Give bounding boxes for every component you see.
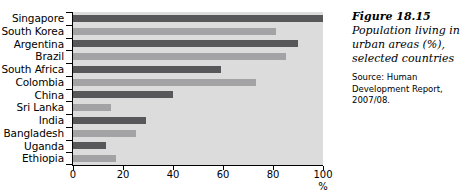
- x-axis-tick-label: 20: [117, 170, 130, 180]
- bar: [73, 15, 323, 22]
- y-axis-category-label: India: [0, 114, 66, 127]
- bar-row: [73, 114, 323, 127]
- bar-row: [73, 38, 323, 51]
- bar-row: [73, 76, 323, 89]
- y-axis-category-label: Brazil: [0, 50, 66, 63]
- x-axis-tick-label: 100: [313, 170, 332, 180]
- bar-chart: SingaporeSouth KoreaArgentinaBrazilSouth…: [0, 0, 330, 196]
- bar: [73, 79, 256, 86]
- x-axis-tick-label: 40: [167, 170, 180, 180]
- y-axis-category-label: Colombia: [0, 76, 66, 89]
- figure-description: Population living in urban areas (%), se…: [352, 24, 460, 66]
- bar: [73, 66, 221, 73]
- y-axis-category-label: South Africa: [0, 63, 66, 76]
- y-axis-category-label: Bangladesh: [0, 127, 66, 140]
- bar-row: [73, 89, 323, 102]
- bar: [73, 104, 111, 111]
- bar: [73, 91, 173, 98]
- bar-row: [73, 63, 323, 76]
- figure-source: Source: Human Development Report, 2007/0…: [352, 72, 460, 107]
- y-axis-category-label: Uganda: [0, 140, 66, 153]
- bar: [73, 28, 276, 35]
- figure-container: SingaporeSouth KoreaArgentinaBrazilSouth…: [0, 0, 463, 196]
- bar: [73, 155, 116, 162]
- y-axis-category-label: China: [0, 89, 66, 102]
- y-axis-category-labels: SingaporeSouth KoreaArgentinaBrazilSouth…: [0, 12, 66, 165]
- x-axis-tick-label: 0: [70, 170, 76, 180]
- figure-number: Figure 18.15: [352, 10, 460, 24]
- x-axis-title: %: [73, 182, 323, 194]
- bar-row: [73, 25, 323, 38]
- y-axis-category-label: Singapore: [0, 12, 66, 25]
- y-axis-category-label: South Korea: [0, 25, 66, 38]
- bar: [73, 117, 146, 124]
- bar-row: [73, 127, 323, 140]
- bar-row: [73, 101, 323, 114]
- bar: [73, 130, 136, 137]
- bar-row: [73, 12, 323, 25]
- bar: [73, 142, 106, 149]
- y-axis-category-label: Sri Lanka: [0, 101, 66, 114]
- bar-row: [73, 140, 323, 153]
- bar-row: [73, 152, 323, 165]
- x-axis-tick-label: 60: [217, 170, 230, 180]
- x-axis-title-text: %: [318, 182, 328, 192]
- x-axis-tick-label: 80: [267, 170, 280, 180]
- plot-area: [73, 12, 323, 165]
- bar-series: [73, 12, 323, 165]
- bar: [73, 53, 286, 60]
- bar-row: [73, 50, 323, 63]
- y-axis-category-label: Argentina: [0, 38, 66, 51]
- figure-caption-block: Figure 18.15 Population living in urban …: [352, 10, 460, 107]
- y-axis-category-label: Ethiopia: [0, 152, 66, 165]
- bar: [73, 40, 298, 47]
